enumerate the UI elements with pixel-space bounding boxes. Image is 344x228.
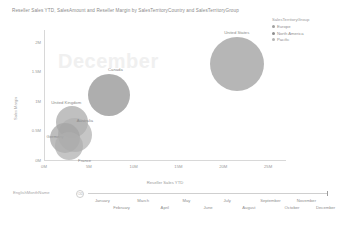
month-slicer[interactable]: EnglishMonthName ⌫ JanuaryFebruaryMarchA… — [0, 188, 344, 228]
report-canvas: Reseller Sales YTD, SalesAmount and Rese… — [0, 0, 344, 228]
y-tick-label: 0.5M — [19, 128, 41, 133]
legend-title: SalesTerritoryGroup — [268, 17, 330, 22]
slicer-handle[interactable] — [327, 191, 328, 196]
slicer-month-august[interactable]: August — [242, 205, 255, 210]
x-tick-label: 15M — [166, 164, 190, 169]
y-tick-label: 1.5M — [19, 69, 41, 74]
bubble-united-states[interactable] — [210, 37, 264, 91]
bubble-label: Canada — [108, 67, 123, 72]
slicer-month-april[interactable]: April — [161, 205, 169, 210]
slicer-track[interactable] — [88, 193, 328, 194]
x-tick-label: 20M — [211, 164, 235, 169]
x-tick-label: 0M — [32, 164, 56, 169]
y-tick-label: 2M — [19, 39, 41, 44]
scatter-chart: December United StatesCanadaUnited Kingd… — [0, 24, 344, 174]
eraser-icon[interactable]: ⌫ — [76, 190, 84, 198]
slicer-month-november[interactable]: November — [297, 198, 316, 203]
x-tick-label: 25M — [256, 164, 280, 169]
bubble-france[interactable] — [55, 132, 83, 160]
page-title: Reseller Sales YTD, SalesAmount and Rese… — [12, 8, 312, 13]
y-axis-title: Sales Margin — [13, 97, 18, 120]
slicer-month-december[interactable]: December — [316, 205, 335, 210]
x-tick-label: 10M — [122, 164, 146, 169]
slicer-month-september[interactable]: September — [260, 198, 280, 203]
bubble-label: United Kingdom — [51, 100, 81, 105]
eraser-glyph: ⌫ — [77, 191, 83, 197]
bubble-label: France — [78, 158, 91, 163]
slicer-month-july[interactable]: July — [223, 198, 230, 203]
y-tick-label: 0M — [19, 158, 41, 163]
x-tick-label: 5M — [77, 164, 101, 169]
slicer-month-january[interactable]: January — [95, 198, 110, 203]
bubble-label: United States — [224, 30, 249, 35]
slicer-month-march[interactable]: March — [137, 198, 149, 203]
slicer-month-may[interactable]: May — [182, 198, 190, 203]
x-axis-title: Reseller Sales YTD — [147, 180, 183, 185]
plot-area[interactable]: United StatesCanadaUnited KingdomAustral… — [44, 30, 286, 160]
bubble-label: Australia — [77, 118, 93, 123]
bubble-canada[interactable] — [88, 74, 130, 116]
slicer-month-february[interactable]: February — [113, 205, 130, 210]
slicer-label: EnglishMonthName — [13, 190, 50, 195]
slicer-month-october[interactable]: October — [285, 205, 300, 210]
slicer-month-june[interactable]: June — [203, 205, 212, 210]
y-tick-label: 1M — [19, 98, 41, 103]
